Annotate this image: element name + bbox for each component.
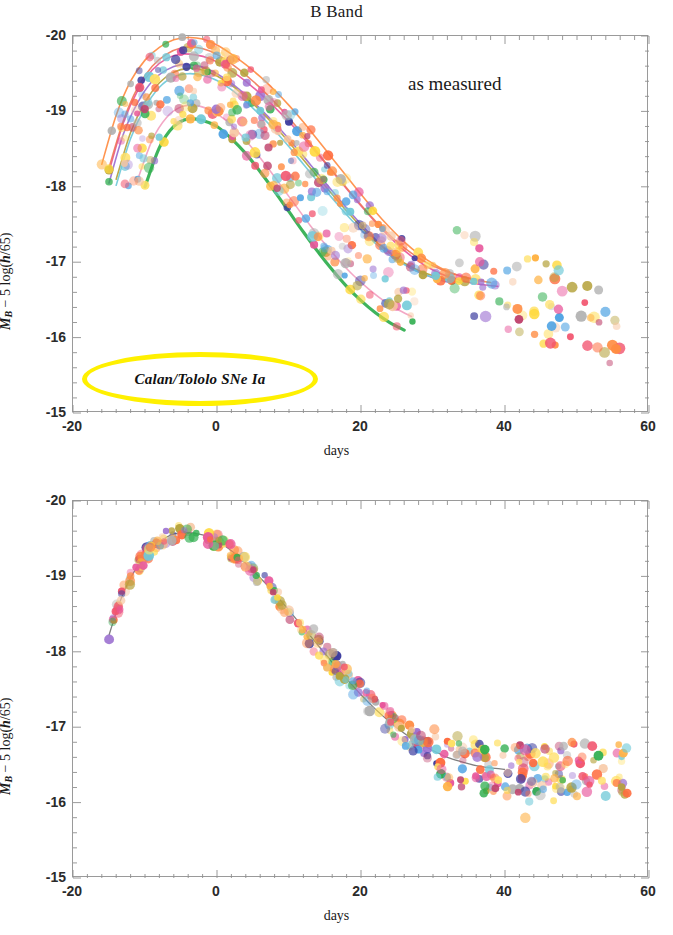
data-point: [340, 223, 349, 232]
data-point: [339, 243, 346, 250]
data-point: [129, 176, 138, 185]
data-point: [545, 338, 556, 349]
data-point: [141, 105, 149, 113]
data-point: [264, 143, 272, 151]
y-tick-label: -17: [46, 718, 66, 734]
data-point: [365, 237, 375, 247]
data-point: [369, 220, 376, 227]
data-point: [281, 110, 291, 120]
data-point: [327, 169, 333, 175]
data-point: [436, 764, 446, 774]
data-point: [455, 258, 464, 267]
data-point: [216, 103, 225, 112]
data-point: [596, 319, 603, 326]
panel-stretch-corrected: MB − 5 log(h/65) -20-19-18-17-16-15 -200…: [0, 465, 673, 935]
data-point: [162, 53, 170, 61]
data-point: [309, 210, 316, 217]
data-point: [349, 677, 356, 684]
data-point: [314, 232, 323, 241]
data-points: [104, 522, 631, 823]
data-point: [134, 126, 143, 135]
data-point: [594, 285, 603, 294]
x-tick-label: 20: [352, 418, 368, 434]
data-point: [448, 740, 456, 748]
data-point: [334, 232, 343, 241]
data-point: [600, 307, 610, 317]
data-point: [532, 254, 539, 261]
data-point: [361, 275, 367, 281]
data-point: [306, 125, 315, 134]
data-point: [148, 133, 155, 140]
data-point: [559, 777, 566, 784]
data-point: [135, 83, 144, 92]
data-point: [285, 615, 294, 624]
y-axis-h: h: [0, 255, 13, 263]
data-point: [287, 202, 293, 208]
data-point: [318, 206, 328, 216]
data-point: [355, 252, 362, 259]
y-axis-middle: − 5 log(: [0, 263, 13, 311]
x-tick-label: 0: [212, 883, 220, 899]
data-point: [561, 323, 570, 332]
data-point: [384, 299, 395, 310]
data-point: [486, 278, 497, 289]
data-point: [503, 304, 510, 311]
data-point: [216, 537, 222, 543]
data-point: [557, 286, 568, 297]
data-point: [213, 52, 221, 60]
data-point: [500, 744, 509, 753]
y-tick-label: -16: [46, 329, 66, 345]
data-point: [316, 174, 327, 185]
data-point: [256, 107, 264, 115]
data-point: [217, 83, 226, 92]
data-point: [225, 540, 234, 549]
data-point: [478, 279, 485, 286]
data-point: [491, 760, 497, 766]
data-point: [291, 172, 300, 181]
data-point: [475, 257, 485, 267]
callout-calan-tololo: Calan/Tololo SNe Ia: [82, 352, 318, 406]
data-point: [328, 648, 337, 657]
data-point: [582, 340, 593, 351]
data-point: [460, 231, 468, 239]
data-point: [622, 743, 632, 753]
data-point: [512, 304, 522, 314]
data-point: [529, 759, 537, 767]
data-point: [320, 242, 327, 249]
data-point: [490, 268, 497, 275]
data-point: [336, 672, 344, 680]
data-point: [323, 663, 331, 671]
data-point: [127, 115, 134, 122]
data-point: [125, 579, 135, 589]
data-point: [299, 626, 306, 633]
data-point: [139, 561, 148, 570]
data-point: [145, 53, 154, 62]
data-point: [309, 624, 318, 633]
data-point: [323, 150, 333, 160]
data-point: [495, 297, 503, 305]
data-point: [531, 331, 538, 338]
y-axis-ticks: -20-19-18-17-16-15: [22, 35, 66, 412]
data-point: [207, 536, 213, 542]
data-point: [251, 95, 261, 105]
data-point: [104, 634, 114, 644]
data-point: [243, 103, 249, 109]
data-point: [555, 313, 564, 322]
data-point: [181, 101, 191, 111]
data-point: [387, 719, 394, 726]
data-point: [432, 271, 441, 280]
data-point: [297, 194, 304, 201]
data-point: [291, 149, 298, 156]
data-point: [178, 72, 187, 81]
data-point: [571, 779, 581, 789]
data-point: [240, 118, 248, 126]
data-point: [573, 792, 581, 800]
data-point: [304, 133, 310, 139]
data-point: [524, 255, 531, 262]
data-point: [613, 322, 621, 330]
data-point: [623, 789, 632, 798]
y-axis-subscript: B: [3, 311, 14, 318]
data-point: [480, 781, 489, 790]
data-point: [503, 266, 511, 274]
data-point: [231, 124, 237, 130]
